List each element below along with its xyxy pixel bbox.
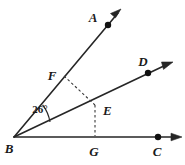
point-e-label: E bbox=[102, 103, 112, 118]
point-b-label: B bbox=[4, 141, 14, 156]
angle-measure-label: 26° bbox=[32, 103, 47, 115]
point-f-label: F bbox=[47, 68, 57, 83]
diagram-canvas: A B C D E F G 26° bbox=[0, 0, 185, 165]
point-c-label: C bbox=[153, 144, 162, 159]
point-a-dot bbox=[105, 22, 111, 28]
point-d-dot bbox=[145, 70, 151, 76]
ray-bd-line bbox=[14, 64, 168, 137]
ray-bd-arrowhead bbox=[162, 62, 174, 69]
point-g-label: G bbox=[89, 144, 99, 159]
ray-ba-line bbox=[14, 13, 118, 137]
point-a-label: A bbox=[88, 10, 98, 25]
geometry-diagram: A B C D E F G 26° bbox=[0, 0, 185, 165]
point-d-label: D bbox=[137, 54, 148, 69]
ray-ba-arrowhead bbox=[111, 9, 122, 18]
point-c-dot bbox=[155, 134, 161, 140]
segment-fe-dashed bbox=[64, 76, 95, 105]
ray-bc-arrowhead bbox=[171, 133, 182, 141]
